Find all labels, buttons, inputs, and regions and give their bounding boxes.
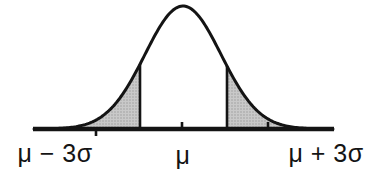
axis-label-mu-plus-3sigma: μ + 3σ	[288, 141, 363, 166]
shaded-left-tail	[34, 64, 140, 129]
axis-label-mu: μ	[176, 143, 191, 168]
normal-distribution-figure: μ − 3σ μ μ + 3σ	[0, 0, 373, 180]
shaded-right-tail	[227, 66, 333, 129]
axis-label-mu-minus-3sigma: μ − 3σ	[17, 141, 92, 166]
bell-curve-line	[34, 6, 333, 129]
